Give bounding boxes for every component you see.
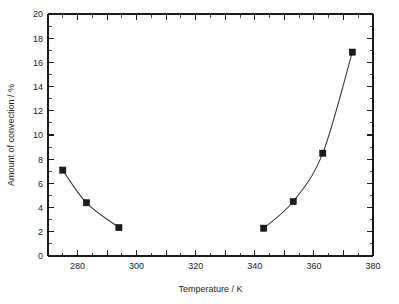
y-tick-label: 4 bbox=[38, 203, 43, 213]
data-point-marker bbox=[116, 224, 122, 230]
x-tick-label: 340 bbox=[247, 261, 262, 271]
x-tick-label: 380 bbox=[365, 261, 380, 271]
x-axis-title: Temperature / K bbox=[178, 284, 242, 294]
convection-vs-temperature-chart: 02468101214161820 280300320340360380 Tem… bbox=[0, 0, 399, 304]
data-point-marker bbox=[349, 49, 355, 55]
x-tick-label: 360 bbox=[306, 261, 321, 271]
x-tick-label: 320 bbox=[188, 261, 203, 271]
x-tick-label: 280 bbox=[70, 261, 85, 271]
data-point-marker bbox=[60, 167, 66, 173]
data-point-marker bbox=[290, 198, 296, 204]
y-tick-label: 14 bbox=[33, 82, 43, 92]
y-tick-label: 12 bbox=[33, 106, 43, 116]
chart-figure: 02468101214161820 280300320340360380 Tem… bbox=[0, 0, 399, 304]
y-tick-label: 0 bbox=[38, 251, 43, 261]
data-point-marker bbox=[320, 150, 326, 156]
x-tick-label: 300 bbox=[129, 261, 144, 271]
data-point-marker bbox=[261, 225, 267, 231]
y-tick-label: 16 bbox=[33, 58, 43, 68]
y-tick-label: 10 bbox=[33, 130, 43, 140]
y-tick-label: 2 bbox=[38, 227, 43, 237]
y-tick-label: 6 bbox=[38, 179, 43, 189]
data-point-marker bbox=[83, 200, 89, 206]
y-axis-title: Amount of convection / % bbox=[6, 84, 16, 186]
y-tick-label: 18 bbox=[33, 34, 43, 44]
y-tick-label: 8 bbox=[38, 155, 43, 165]
y-tick-label: 20 bbox=[33, 9, 43, 19]
chart-background bbox=[0, 0, 399, 304]
